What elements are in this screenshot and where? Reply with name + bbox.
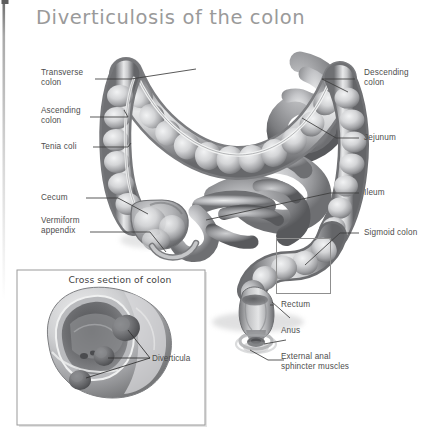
page-title: Diverticulosis of the colon: [36, 6, 305, 29]
label-anus: Anus: [281, 326, 300, 336]
label-tenia-coli: Tenia coli: [41, 142, 77, 152]
label-transverse-colon: Transverse colon: [41, 68, 83, 89]
label-descending-colon: Descending colon: [364, 68, 409, 89]
label-ascending-colon: Ascending colon: [41, 106, 81, 127]
label-diverticula: Diverticula: [152, 354, 190, 363]
label-vermiform-appendix: Vermiform appendix: [41, 216, 80, 237]
label-cecum: Cecum: [41, 193, 68, 203]
label-external-anal-sphincter: External anal sphincter muscles: [281, 352, 349, 373]
scan-edge-artifact: [2, 0, 9, 300]
label-ileum: Ileum: [364, 188, 385, 198]
inset-panel: [17, 270, 207, 427]
label-sigmoid-colon: Sigmoid colon: [364, 228, 417, 238]
inset-title: Cross section of colon: [40, 274, 200, 285]
label-rectum: Rectum: [281, 300, 310, 310]
label-jejunum: Jejunum: [364, 133, 396, 143]
